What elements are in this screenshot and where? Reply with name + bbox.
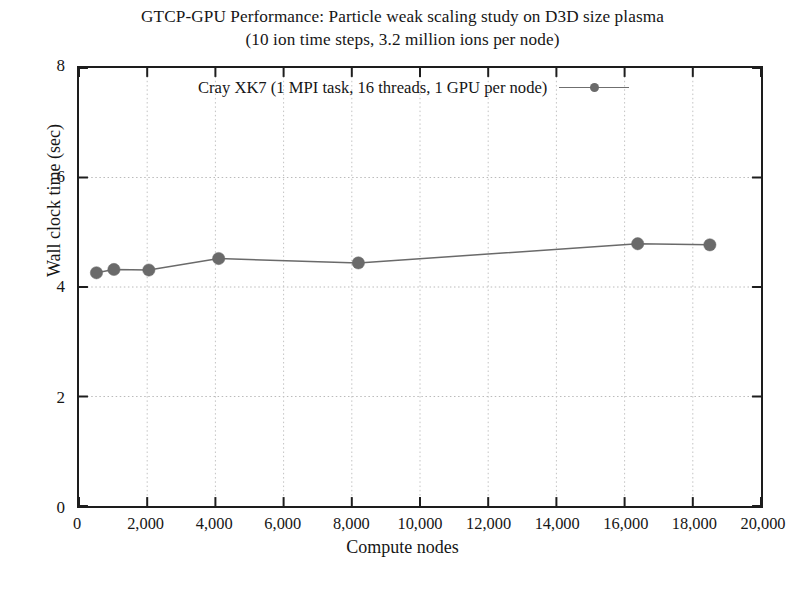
legend-line-marker-sample [559, 80, 629, 96]
chart-title: GTCP-GPU Performance: Particle weak scal… [0, 6, 805, 29]
chart-figure: GTCP-GPU Performance: Particle weak scal… [0, 0, 805, 591]
data-point-marker [352, 257, 364, 269]
data-point-marker [143, 264, 155, 276]
chart-subtitle: (10 ion time steps, 3.2 million ions per… [0, 29, 805, 52]
data-point-marker [632, 238, 644, 250]
x-axis-label-wrapper: Compute nodes [0, 537, 805, 558]
y-tick-label: 2 [5, 388, 65, 408]
plot-area [77, 66, 763, 508]
y-tick-label: 8 [5, 56, 65, 76]
y-tick-label: 4 [5, 277, 65, 297]
data-point-marker [90, 267, 102, 279]
chart-legend: Cray XK7 (1 MPI task, 16 threads, 1 GPU … [198, 76, 629, 100]
legend-marker-icon [590, 83, 599, 92]
x-axis-label: Compute nodes [346, 537, 459, 557]
plot-canvas [79, 68, 761, 506]
y-axis-label: Wall clock time (sec) [44, 124, 64, 277]
legend-entry-label: Cray XK7 (1 MPI task, 16 threads, 1 GPU … [198, 78, 547, 98]
data-point-marker [108, 263, 120, 275]
x-tick-label: 20,000 [703, 514, 805, 534]
series-line [96, 244, 709, 273]
y-axis-label-wrapper: Wall clock time (sec) [44, 51, 65, 351]
gridlines [79, 68, 761, 506]
data-point-marker [213, 252, 225, 264]
data-series [90, 238, 716, 279]
chart-title-block: GTCP-GPU Performance: Particle weak scal… [0, 6, 805, 51]
y-tick-label: 6 [5, 167, 65, 187]
data-point-marker [704, 239, 716, 251]
